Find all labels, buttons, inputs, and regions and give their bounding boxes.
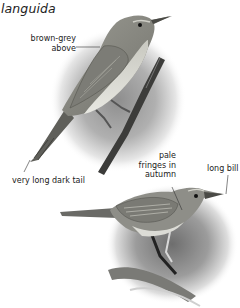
label-brown-grey-above: brown-grey above [30, 34, 76, 53]
label-long-bill: long bill [207, 164, 239, 174]
leader-line [24, 160, 30, 172]
label-pale-fringes: pale fringes in autumn [130, 151, 176, 180]
leader-line [226, 175, 228, 194]
label-very-long-dark-tail: very long dark tail [12, 176, 85, 186]
species-name: languida [1, 1, 56, 16]
autumn-bird-illustration [60, 184, 238, 306]
